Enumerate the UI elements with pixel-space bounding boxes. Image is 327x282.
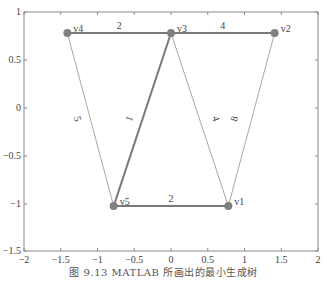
edge-weight-label: 2 — [169, 193, 174, 204]
node-v4-marker — [63, 29, 71, 37]
node-label-v2: v2 — [281, 23, 291, 34]
y-tick-label: −1 — [10, 198, 21, 209]
node-label-v3: v3 — [177, 23, 187, 34]
node-v5-marker — [110, 202, 118, 210]
node-label-v4: v4 — [73, 23, 83, 34]
node-label-v1: v1 — [234, 196, 244, 207]
y-tick-label: 0.5 — [9, 54, 22, 65]
node-label-v5: v5 — [120, 196, 130, 207]
figure-caption: 图 9.13 MATLAB 所画出的最小生成树 — [0, 264, 327, 279]
edge-weight-label: 4 — [220, 20, 225, 31]
graph-figure: −2−1.5−1−0.500.511.52 10.50−0.5−1−1.5 24… — [0, 0, 327, 282]
y-tick-label: 0 — [16, 102, 21, 113]
edge-weight-label: 2 — [117, 20, 122, 31]
axes-frame — [24, 12, 318, 251]
y-tick-label: 1 — [16, 6, 21, 17]
y-tick-label: −0.5 — [3, 150, 21, 161]
node-v2-marker — [271, 29, 279, 37]
y-tick-label: −1.5 — [3, 245, 21, 256]
node-v3-marker — [167, 29, 175, 37]
node-v1-marker — [224, 202, 232, 210]
